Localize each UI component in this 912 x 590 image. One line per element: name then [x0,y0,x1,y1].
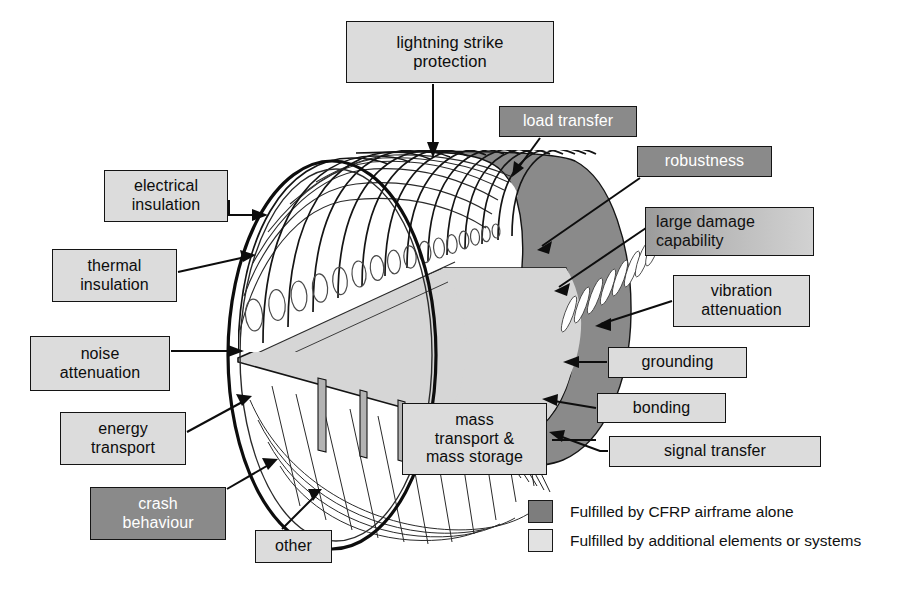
callout-load-transfer[interactable]: load transfer [499,106,637,137]
callout-label: lightning strike protection [396,33,503,72]
callout-label: noise attenuation [60,345,140,383]
callout-thermal-insulation[interactable]: thermal insulation [52,249,177,302]
callout-label: robustness [665,152,744,171]
callout-lightning-strike-protection[interactable]: lightning strike protection [346,21,554,83]
diagram-canvas: lightning strike protectionload transfer… [0,0,912,590]
callout-label: bonding [633,399,691,418]
callout-label: large damage capability [656,213,755,251]
callout-label: grounding [641,353,713,372]
callout-label: vibration attenuation [701,282,781,320]
callout-label: mass transport & mass storage [426,411,523,468]
callout-label: thermal insulation [80,257,149,295]
callout-energy-transport[interactable]: energy transport [60,412,186,465]
callout-label: energy transport [91,420,155,458]
legend-swatch-dark [528,500,553,523]
callout-crash-behaviour[interactable]: crash behaviour [90,487,226,540]
arrow-energy-transport [187,400,246,432]
legend-swatch-light [528,529,553,552]
callout-other[interactable]: other [255,530,332,563]
legend-label-cfrp-alone: Fulfilled by CFRP airframe alone [570,503,794,521]
legend: Fulfilled by CFRP airframe alone Fulfill… [528,497,900,555]
callout-vibration-attenuation[interactable]: vibration attenuation [673,275,810,327]
arrow-other [282,494,317,529]
legend-label-additional-systems: Fulfilled by additional elements or syst… [570,532,861,550]
callout-large-damage-capability[interactable]: large damage capability [645,207,814,256]
callout-mass-transport-and-mass-storage[interactable]: mass transport & mass storage [402,403,547,475]
callout-label: crash behaviour [122,495,193,533]
legend-item-cfrp-alone: Fulfilled by CFRP airframe alone [528,497,900,526]
callout-label: signal transfer [664,442,766,461]
callout-label: electrical insulation [132,177,201,215]
callout-bonding[interactable]: bonding [597,393,726,423]
callout-electrical-insulation[interactable]: electrical insulation [104,170,228,222]
callout-signal-transfer[interactable]: signal transfer [609,436,821,467]
callout-robustness[interactable]: robustness [637,146,772,177]
callout-noise-attenuation[interactable]: noise attenuation [30,336,170,391]
callout-grounding[interactable]: grounding [608,347,747,378]
arrow-crash-behaviour [227,463,272,489]
callout-label: other [275,537,312,556]
legend-item-additional-systems: Fulfilled by additional elements or syst… [528,526,900,555]
callout-label: load transfer [523,112,613,131]
